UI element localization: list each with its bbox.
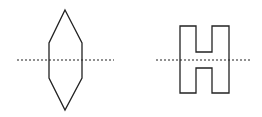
diagram-svg [0,0,262,117]
letter-h-figure [156,26,252,93]
symmetry-diagram [0,0,262,117]
hexagon-figure [17,10,114,110]
